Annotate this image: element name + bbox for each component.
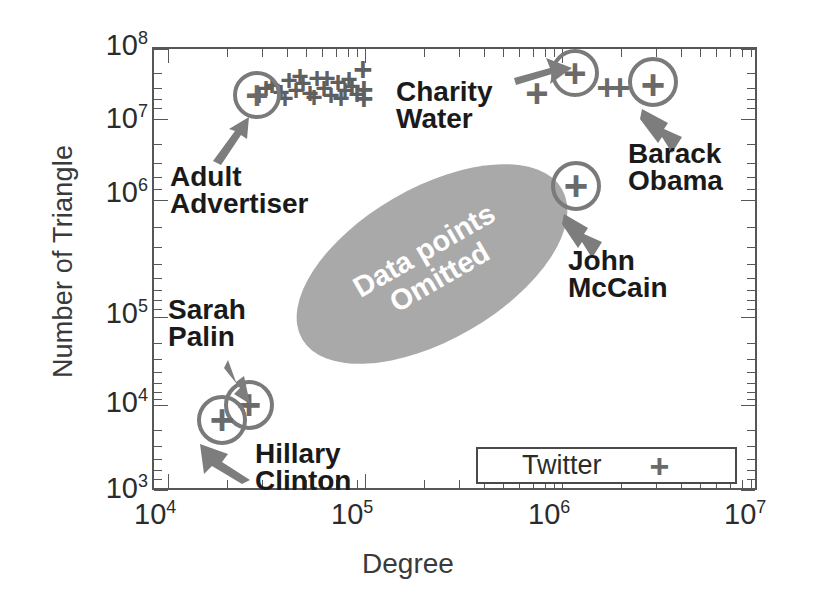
x-minor-tick-top <box>322 49 323 57</box>
y-minor-tick <box>154 290 162 291</box>
x-minor-tick-top <box>742 49 743 57</box>
y-minor-tick-right <box>747 247 755 248</box>
y-major-tick <box>154 119 168 120</box>
y-tick-label-1e6: 106 <box>62 178 148 207</box>
x-minor-tick-top <box>700 49 701 57</box>
x-tick-label-1e4: 104 <box>134 500 176 529</box>
x-major-tick-top <box>755 49 756 63</box>
y-minor-tick-right <box>747 470 755 471</box>
x-minor-tick-top <box>348 49 349 57</box>
arrow-adult-advertiser <box>205 115 265 165</box>
y-minor-tick-right <box>747 144 755 145</box>
x-minor-tick-top <box>262 49 263 57</box>
y-minor-tick-right <box>747 278 755 279</box>
x-minor-tick <box>357 480 358 488</box>
y-minor-tick <box>154 278 162 279</box>
y-minor-tick-right <box>747 446 755 447</box>
x-minor-tick-top <box>227 49 228 57</box>
y-minor-tick-right <box>747 108 755 109</box>
y-minor-tick <box>154 372 162 373</box>
y-minor-tick <box>154 392 162 393</box>
x-minor-tick-top <box>484 49 485 57</box>
y-minor-tick <box>154 399 162 400</box>
y-tick-label-1e4: 104 <box>62 388 148 417</box>
x-minor-tick-top <box>621 49 622 57</box>
x-minor-tick-top <box>424 49 425 57</box>
y-major-tick-right <box>741 200 755 201</box>
x-axis-label: Degree <box>0 548 816 580</box>
y-major-tick-right <box>741 317 755 318</box>
annotation-adult-advertiser: Adult Advertiser <box>170 163 309 218</box>
x-minor-tick <box>424 480 425 488</box>
x-minor-tick <box>742 480 743 488</box>
x-major-tick <box>168 474 169 488</box>
y-minor-tick <box>154 343 162 344</box>
x-minor-tick-top <box>681 49 682 57</box>
legend-label-twitter: Twitter <box>522 452 602 479</box>
y-minor-tick-right <box>747 264 755 265</box>
y-minor-tick <box>154 300 162 301</box>
y-major-tick <box>154 317 168 318</box>
y-minor-tick-right <box>747 163 755 164</box>
y-minor-tick <box>154 227 162 228</box>
y-major-tick-right <box>741 119 755 120</box>
annotation-charity-water: Charity Water <box>396 78 492 133</box>
legend: Twitter + <box>476 447 737 484</box>
x-tick-label-1e7: 107 <box>724 500 766 529</box>
highlight-circle-john-mccain <box>551 161 601 211</box>
highlight-circle-adult-advertiser <box>233 71 281 119</box>
x-minor-tick-top <box>503 49 504 57</box>
y-tick-label-1e7: 107 <box>62 104 148 133</box>
y-minor-tick <box>154 99 162 100</box>
y-minor-tick-right <box>747 227 755 228</box>
y-minor-tick-right <box>747 73 755 74</box>
annotation-john-mccain: John McCain <box>568 247 668 302</box>
y-minor-tick <box>154 309 162 310</box>
x-minor-tick-top <box>730 49 731 57</box>
y-minor-tick <box>154 446 162 447</box>
arrow-hillary-clinton <box>196 440 252 484</box>
y-minor-tick <box>154 470 162 471</box>
y-minor-tick-right <box>747 300 755 301</box>
arrow-sarah-palin <box>222 358 272 410</box>
y-minor-tick <box>154 383 162 384</box>
x-major-tick-top <box>168 49 169 63</box>
data-point: + <box>609 70 630 106</box>
y-minor-tick-right <box>747 479 755 480</box>
y-minor-tick-right <box>747 383 755 384</box>
x-minor-tick-top <box>716 49 717 57</box>
y-minor-tick <box>154 459 162 460</box>
legend-marker-plus-icon: + <box>650 449 670 483</box>
x-tick-label-1e6: 106 <box>528 500 570 529</box>
y-minor-tick-right <box>747 459 755 460</box>
y-minor-tick-right <box>747 189 755 190</box>
y-minor-tick <box>154 88 162 89</box>
y-major-tick <box>154 49 168 50</box>
y-minor-tick <box>154 177 162 178</box>
x-minor-tick-top <box>656 49 657 57</box>
y-minor-tick <box>154 247 162 248</box>
arrow-charity-water <box>512 52 578 90</box>
data-point: + <box>354 82 373 115</box>
y-minor-tick <box>154 163 162 164</box>
y-minor-tick <box>154 264 162 265</box>
y-major-tick-right <box>741 490 755 491</box>
x-minor-tick-top <box>306 49 307 57</box>
y-major-tick <box>154 490 168 491</box>
y-minor-tick-right <box>747 99 755 100</box>
y-minor-tick <box>154 73 162 74</box>
omitted-data-label: Data points Omitted <box>348 198 515 330</box>
y-axis-label: Number of Triangle <box>48 107 79 417</box>
y-major-tick <box>154 200 168 201</box>
x-minor-tick <box>459 480 460 488</box>
y-minor-tick-right <box>747 359 755 360</box>
y-minor-tick <box>154 479 162 480</box>
x-tick-label-1e5: 105 <box>331 500 373 529</box>
scatter-plot-figure: Number of Triangle Degree 108 107 106 10… <box>0 0 816 604</box>
x-major-tick <box>755 474 756 488</box>
x-major-tick <box>365 474 366 488</box>
y-tick-label-1e5: 105 <box>62 299 148 328</box>
y-tick-label-1e8: 108 <box>62 31 148 60</box>
highlight-circle-barack-obama <box>628 57 678 107</box>
y-minor-tick <box>154 108 162 109</box>
